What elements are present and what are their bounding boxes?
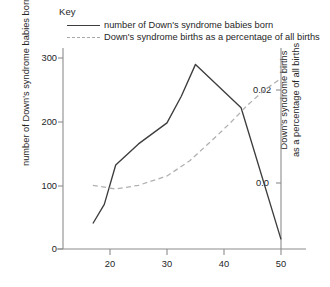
chart-figure: Key number of Down's syndrome babies bor… bbox=[0, 0, 330, 287]
x-axis-ticks bbox=[110, 249, 281, 255]
right-axis-ticks bbox=[276, 90, 281, 183]
series-line-babies-born bbox=[93, 64, 281, 239]
plot-area bbox=[0, 0, 330, 287]
series-line-percentage bbox=[93, 78, 281, 189]
left-axis-ticks bbox=[58, 58, 63, 249]
